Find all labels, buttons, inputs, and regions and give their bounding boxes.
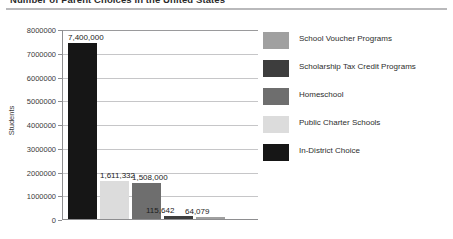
y-axis-tick-label: 0	[52, 216, 56, 225]
legend-color-swatch	[263, 32, 289, 49]
legend-color-swatch	[263, 116, 289, 133]
y-axis-tick-label: 6000000	[27, 73, 56, 82]
y-axis-tick-label: 1000000	[27, 192, 56, 201]
gridline	[62, 30, 258, 31]
bar	[68, 43, 97, 219]
legend-color-swatch	[263, 144, 289, 161]
bar	[100, 181, 129, 219]
legend-item-label: Scholarship Tax Credit Programs	[299, 62, 416, 71]
chart-screenshot: Number of Parent Choices in the United S…	[0, 0, 453, 239]
legend-item-label: In-District Choice	[299, 146, 360, 155]
legend-item[interactable]: Scholarship Tax Credit Programs	[263, 58, 453, 86]
bar-data-label: 7,400,000	[68, 33, 104, 42]
legend-item[interactable]: Public Charter Schools	[263, 114, 453, 142]
bar-data-label: 1,611,332	[100, 171, 135, 180]
y-axis-tick	[58, 220, 62, 221]
bar-data-label: 115,642	[146, 206, 174, 215]
y-axis-tick-label: 8000000	[27, 26, 56, 35]
y-axis-tick-label: 2000000	[27, 168, 56, 177]
y-axis-title: Students	[7, 86, 16, 156]
legend-item-label: Public Charter Schools	[299, 118, 380, 127]
legend-item-label: School Voucher Programs	[299, 34, 392, 43]
y-axis-line	[62, 30, 63, 220]
legend-color-swatch	[263, 88, 289, 105]
bar-data-label: 64,079	[185, 207, 209, 216]
header-divider	[6, 8, 447, 10]
legend-item[interactable]: Homeschool	[263, 86, 453, 114]
plot-area: 8000000700000060000005000000400000030000…	[62, 30, 258, 220]
gridline	[62, 220, 258, 221]
x-axis-line	[62, 219, 258, 220]
y-axis-tick-label: 7000000	[27, 49, 56, 58]
page-title: Number of Parent Choices in the United S…	[10, 0, 440, 5]
y-axis-tick-label: 4000000	[27, 121, 56, 130]
legend-item[interactable]: School Voucher Programs	[263, 30, 453, 58]
bar-data-label: 1,508,000	[132, 173, 168, 182]
legend-item[interactable]: In-District Choice	[263, 142, 453, 170]
legend-color-swatch	[263, 60, 289, 77]
legend-item-label: Homeschool	[299, 90, 343, 99]
y-axis-tick-label: 5000000	[27, 97, 56, 106]
chart-legend: School Voucher ProgramsScholarship Tax C…	[263, 30, 453, 170]
y-axis-tick-label: 3000000	[27, 144, 56, 153]
bar-chart: Students 8000000700000060000005000000400…	[0, 16, 453, 239]
